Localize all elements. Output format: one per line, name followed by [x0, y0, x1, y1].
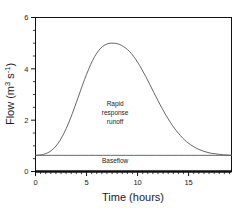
x-tick-label: 5: [84, 178, 88, 187]
x-tick-label: 15: [184, 178, 192, 187]
x-axis-tick-labels: 051015: [33, 178, 192, 187]
y-tick-label: 6: [24, 13, 28, 22]
annotation-layer: RapidresponserunoffBaseflow: [102, 100, 129, 164]
annotation-baseflow: Baseflow: [102, 157, 129, 164]
x-tick-label: 10: [133, 178, 141, 187]
y-tick-label: 2: [24, 116, 28, 125]
y-axis-title: Flow (m3 s-1): [3, 63, 17, 125]
y-tick-label: 0: [24, 167, 28, 176]
y-tick-label: 4: [24, 65, 28, 74]
plot-frame: [36, 18, 232, 172]
y-axis-tick-labels: 0246: [24, 13, 28, 176]
x-axis-title: Time (hours): [102, 191, 164, 203]
chart-canvas: 051015 0246 RapidresponserunoffBaseflow …: [0, 0, 244, 208]
annotation-rapid-response-runoff: Rapidresponserunoff: [102, 100, 129, 125]
data-series-layer: [36, 43, 232, 155]
hydrograph-figure: 051015 0246 RapidresponserunoffBaseflow …: [0, 0, 244, 208]
x-tick-label: 0: [33, 178, 37, 187]
series-line: [36, 43, 232, 155]
